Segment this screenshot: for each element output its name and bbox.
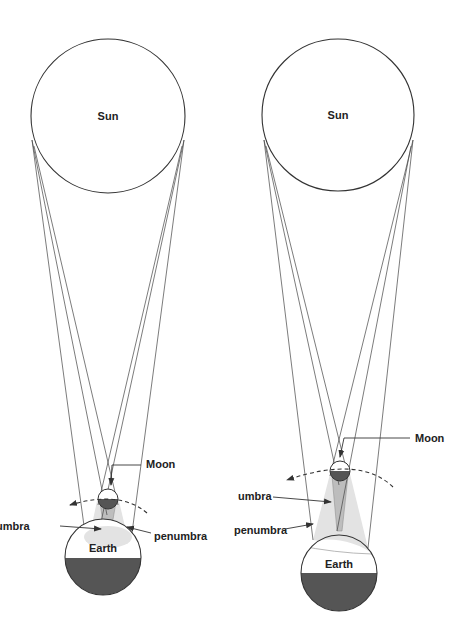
light-rays <box>32 140 184 548</box>
penumbra-arrow <box>285 524 313 529</box>
moon-leader <box>340 438 410 457</box>
sun-label: Sun <box>98 110 119 122</box>
sun-label: Sun <box>328 109 349 121</box>
earth <box>296 530 386 613</box>
earth-label: Earth <box>89 542 117 554</box>
earth <box>60 519 150 598</box>
eclipse-diagram: Sun Earth Moon umbra <box>0 0 462 644</box>
earth-label: Earth <box>325 558 353 570</box>
umbra-label: umbra <box>238 490 273 502</box>
umbra-label: umbra <box>0 520 31 532</box>
penumbra-label: penumbra <box>154 530 208 542</box>
right-panel: Sun Earth Moon <box>234 39 445 613</box>
umbra-arrow <box>273 497 331 502</box>
moon-label: Moon <box>415 432 445 444</box>
left-panel: Sun Earth Moon umbra <box>0 39 208 598</box>
penumbra-label: penumbra <box>234 524 288 536</box>
moon-label: Moon <box>146 458 176 470</box>
moon-leader <box>111 465 141 485</box>
